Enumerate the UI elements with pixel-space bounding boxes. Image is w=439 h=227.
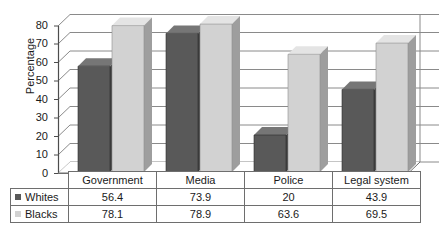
table-header-government: Government <box>69 172 157 189</box>
plot-svg <box>0 0 439 180</box>
y-tick-label-80: 80 <box>22 20 48 31</box>
bar-blacks-media <box>200 16 240 172</box>
bar-blacks-legal-system <box>376 35 416 172</box>
plot-area <box>0 0 439 180</box>
y-tick-label-30: 30 <box>22 112 48 123</box>
legend-swatch-whites-icon <box>15 194 21 200</box>
cell-whites-government: 56.4 <box>69 189 157 206</box>
table-corner-cell <box>11 172 69 189</box>
cell-whites-police: 20 <box>245 189 333 206</box>
y-tick-label-50: 50 <box>22 75 48 86</box>
y-tick-label-40: 40 <box>22 94 48 105</box>
legend-item-whites: Whites <box>11 189 69 206</box>
table-header-row: Government Media Police Legal system <box>11 172 421 189</box>
cell-blacks-police: 63.6 <box>245 206 333 223</box>
table-header-media: Media <box>157 172 245 189</box>
bar-blacks-government <box>112 18 152 172</box>
data-table: Government Media Police Legal system Whi… <box>10 171 421 223</box>
legend-label-whites: Whites <box>25 192 59 204</box>
axis-depth-connectors <box>58 15 70 174</box>
bar-blacks-police <box>288 46 328 172</box>
legend-item-blacks: Blacks <box>11 206 69 223</box>
legend-label-blacks: Blacks <box>25 209 57 221</box>
cell-whites-media: 73.9 <box>157 189 245 206</box>
table-row: Whites 56.4 73.9 20 43.9 <box>11 189 421 206</box>
table-header-police: Police <box>245 172 333 189</box>
table-row: Blacks 78.1 78.9 63.6 69.5 <box>11 206 421 223</box>
legend-swatch-blacks-icon <box>15 211 21 217</box>
cell-blacks-government: 78.1 <box>69 206 157 223</box>
chart-container: Percentage 80 70 60 50 40 30 20 10 0 Gov… <box>0 0 439 227</box>
cell-whites-legal-system: 43.9 <box>333 189 421 206</box>
cell-blacks-media: 78.9 <box>157 206 245 223</box>
cell-blacks-legal-system: 69.5 <box>333 206 421 223</box>
y-tick-label-70: 70 <box>22 38 48 49</box>
table-header-legal-system: Legal system <box>333 172 421 189</box>
y-tick-label-20: 20 <box>22 131 48 142</box>
y-axis <box>54 26 59 174</box>
y-tick-label-60: 60 <box>22 57 48 68</box>
y-tick-label-10: 10 <box>22 149 48 160</box>
